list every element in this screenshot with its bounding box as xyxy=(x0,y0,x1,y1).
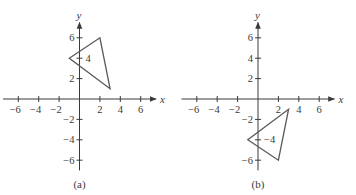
panel-a: xy−6−4−2246642−2−4−6(a) xyxy=(3,9,165,192)
y-tick-label: 4 xyxy=(248,53,254,64)
y-tick-label: 4 xyxy=(86,53,92,64)
x-tick-label: 4 xyxy=(118,104,124,115)
coordinate-plots: xy−6−4−2246642−2−4−6(a) xy−6−4−2246642−2… xyxy=(0,0,356,195)
x-tick-label: 2 xyxy=(276,104,281,115)
panel-caption: (a) xyxy=(73,178,86,191)
x-tick-label: 6 xyxy=(138,104,143,115)
y-tick-label: −4 xyxy=(63,134,75,145)
y-tick-label: −2 xyxy=(63,114,74,125)
y-axis-label: y xyxy=(254,9,260,21)
x-tick-label: 4 xyxy=(296,104,302,115)
x-axis-label: x xyxy=(338,93,344,105)
figure: xy−6−4−2246642−2−4−6(a) xy−6−4−2246642−2… xyxy=(0,0,356,195)
x-tick-label: −2 xyxy=(51,104,62,115)
x-tick-label: −4 xyxy=(209,104,221,115)
y-tick-label: −6 xyxy=(242,155,253,166)
x-tick-label: −4 xyxy=(30,104,42,115)
y-tick-label: 6 xyxy=(69,32,74,43)
panel-b: xy−6−4−2246642−2−4−6(b) xyxy=(182,9,344,192)
x-tick-label: −6 xyxy=(188,104,199,115)
x-tick-label: 2 xyxy=(97,104,102,115)
panel-caption: (b) xyxy=(252,178,265,191)
y-tick-label: −2 xyxy=(242,114,253,125)
y-tick-label: 2 xyxy=(248,73,253,84)
y-tick-label: 2 xyxy=(69,73,74,84)
y-tick-label: −4 xyxy=(264,134,276,145)
y-axis-label: y xyxy=(76,9,82,21)
x-tick-label: −6 xyxy=(10,104,21,115)
x-axis-label: x xyxy=(159,93,165,105)
x-tick-label: −2 xyxy=(229,104,240,115)
x-tick-label: 6 xyxy=(317,104,322,115)
y-tick-label: −6 xyxy=(63,155,74,166)
y-tick-label: 6 xyxy=(248,32,253,43)
